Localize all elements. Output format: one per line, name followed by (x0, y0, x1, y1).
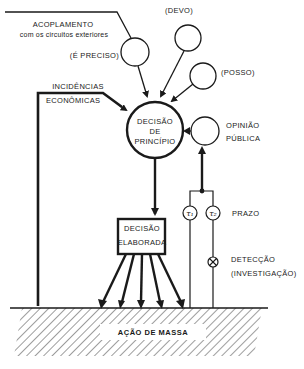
publica-label: PÚBLICA (226, 134, 260, 143)
ground-mass-action: AÇÃO DE MASSA (10, 308, 268, 356)
deteccao-label: DETECÇÃO (231, 255, 275, 264)
acao-de-massa-label: AÇÃO DE MASSA (118, 328, 188, 337)
e-preciso-label: (É PRECISO) (70, 51, 119, 60)
posso-label: (POSSO) (221, 68, 255, 77)
arrowhead-icon (151, 208, 159, 216)
decision-flow-diagram: AÇÃO DE MASSA ACOPLAMENTO com os circuit… (0, 0, 304, 369)
acoplamento-input: ACOPLAMENTO com os circuitos exteriores (5, 12, 131, 38)
tau1-label: τ₁ (186, 209, 194, 218)
acoplamento-label: ACOPLAMENTO (33, 20, 94, 29)
decisao-elaborada-line2: ELABORADA (118, 238, 167, 247)
mass-action-arrows (103, 254, 181, 302)
decisao-elaborada-node: DECISÃO ELABORADA (118, 219, 167, 254)
decisao-principio-line2: DE (149, 127, 160, 136)
economicas-label: ECONÔMICAS (46, 96, 100, 105)
decisao-principio-line3: PRINCÍPIO (134, 137, 175, 146)
prazo-label: PRAZO (232, 209, 259, 218)
posso-node: (POSSO) (172, 63, 255, 101)
feedback-loop: τ₁ τ₂ PRAZO DETECÇÃO (INVESTIGAÇÃO) (183, 146, 297, 308)
circuitos-label: com os circuitos exteriores (20, 31, 109, 38)
incidencias-label: INCIDÊNCIAS (52, 82, 104, 91)
investigacao-label: (INVESTIGAÇÃO) (231, 269, 297, 278)
tau2-label: τ₂ (209, 209, 217, 218)
opiniao-publica-node: OPINIÃO PÚBLICA (183, 117, 260, 145)
opiniao-label: OPINIÃO (226, 121, 259, 130)
decisao-principio-node: DECISÃO DE PRINCÍPIO (127, 102, 183, 158)
decisao-principio-line1: DECISÃO (137, 117, 173, 126)
decisao-elaborada-line1: DECISÃO (124, 224, 160, 233)
incidencias-economicas-input: INCIDÊNCIAS ECONÔMICAS (38, 82, 126, 306)
devo-label: (DEVO) (165, 6, 193, 15)
